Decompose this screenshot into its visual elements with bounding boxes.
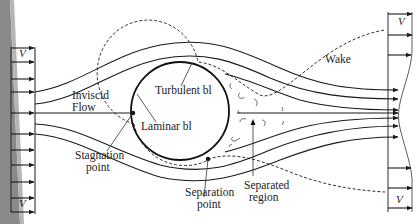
cylinder bbox=[131, 62, 229, 160]
label-wake: Wake bbox=[325, 53, 351, 65]
label-separated-region: region bbox=[249, 191, 279, 204]
label-laminar-bl: Laminar bl bbox=[141, 120, 192, 132]
inlet-velocity-bottom-label: V bbox=[19, 197, 27, 209]
label-turbulent-bl: Turbulent bl bbox=[155, 84, 212, 96]
flow-diagram: V V V V bbox=[0, 0, 417, 224]
outlet-velocity-bottom-label: V bbox=[396, 193, 404, 205]
label-inviscid: Inviscid bbox=[72, 89, 109, 101]
inlet-velocity-top-label: V bbox=[19, 47, 27, 59]
outlet-velocity-top-label: V bbox=[398, 15, 406, 27]
diagram-canvas: V V V V bbox=[0, 0, 417, 224]
outlet-velocity-profile: V V bbox=[388, 12, 412, 212]
label-separation-point: point bbox=[197, 198, 221, 211]
label-flow: Flow bbox=[72, 101, 96, 113]
label-stagnation-point: point bbox=[86, 161, 110, 174]
